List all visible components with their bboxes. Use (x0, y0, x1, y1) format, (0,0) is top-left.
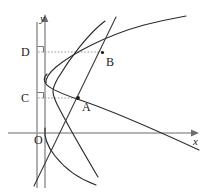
point-label-d: D (21, 46, 30, 58)
right-angle-mark-d (38, 47, 44, 53)
outer-parabola-lower-branch (45, 128, 96, 185)
geometry-figure: A B C D O x y (0, 0, 207, 195)
point-marker-a (76, 96, 80, 100)
point-label-a: A (82, 101, 91, 113)
point-label-b: B (106, 56, 114, 68)
y-axis-label: y (40, 13, 45, 24)
x-axis-label: x (193, 136, 198, 147)
figure-canvas (0, 0, 207, 195)
origin-label: O (34, 134, 43, 146)
point-marker-b (101, 51, 104, 54)
line-AB (34, 17, 116, 186)
outer-parabola (44, 74, 199, 150)
outer-parabola-upper-branch (46, 16, 186, 83)
point-label-c: C (21, 92, 29, 104)
right-angle-mark-c (38, 93, 44, 99)
